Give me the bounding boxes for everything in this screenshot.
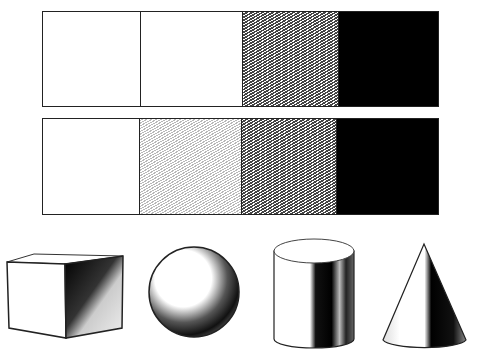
tone-strip-bottom [42,118,439,215]
tone-cell-white [43,119,139,214]
cylinder-illustration [270,232,365,352]
tone-cell-white [43,12,140,106]
tone-cell-mid-gray [241,119,336,214]
tone-cell-black [336,119,438,214]
sphere-illustration [145,243,245,343]
tone-cell-light-gray [139,119,241,214]
cone-illustration [378,240,478,352]
cube-illustration [0,250,130,350]
tone-cell-black [338,12,438,106]
tone-cell-mid-gray [242,12,338,106]
tone-cell-white [140,12,242,106]
tone-strip-top [42,11,439,107]
